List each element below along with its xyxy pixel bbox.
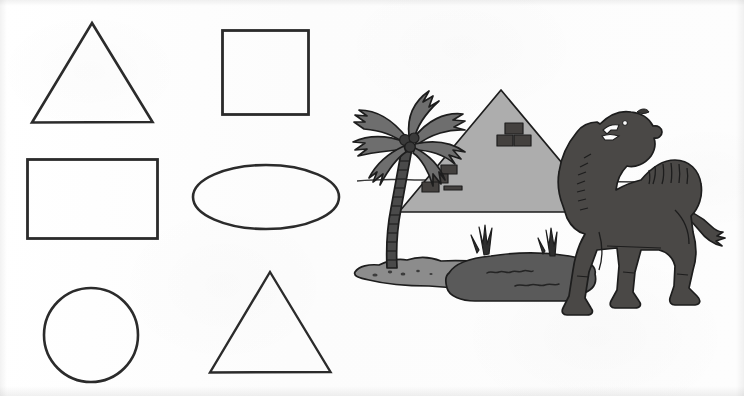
geometric-shapes-panel	[0, 0, 355, 396]
triangle-outline	[32, 23, 153, 123]
camel[interactable]	[558, 109, 725, 315]
camel-ear	[637, 109, 649, 114]
grass-tuft-right	[538, 228, 557, 256]
shape-triangle-top-left[interactable]	[32, 23, 153, 123]
pebble	[416, 270, 420, 272]
shape-circle-bottom-left[interactable]	[44, 288, 138, 382]
pebble	[429, 273, 432, 275]
rectangle-outline	[28, 160, 158, 239]
shape-rectangle-middle-left[interactable]	[28, 160, 158, 239]
camel-eye	[623, 121, 628, 126]
desert-scene-canvas: .ln { stroke:#1d1d1d; stroke-width:1.7; …	[345, 60, 744, 340]
desert-scene-panel: .ln { stroke:#1d1d1d; stroke-width:1.7; …	[345, 60, 744, 340]
shapes-canvas	[0, 0, 355, 396]
pebble	[388, 271, 392, 274]
pebble	[372, 273, 377, 276]
worksheet-page: .ln { stroke:#1d1d1d; stroke-width:1.7; …	[0, 0, 744, 396]
circle-outline	[44, 288, 138, 382]
shape-triangle-bottom-right[interactable]	[210, 272, 331, 373]
shape-square-top-right[interactable]	[223, 31, 309, 115]
camel-body	[558, 112, 701, 315]
pebble	[401, 273, 406, 276]
grass-tuft-left	[471, 225, 492, 255]
square-outline	[223, 31, 309, 115]
triangle-outline	[210, 272, 331, 373]
ellipse-outline	[193, 165, 339, 229]
shape-ellipse-middle-right[interactable]	[193, 165, 339, 229]
